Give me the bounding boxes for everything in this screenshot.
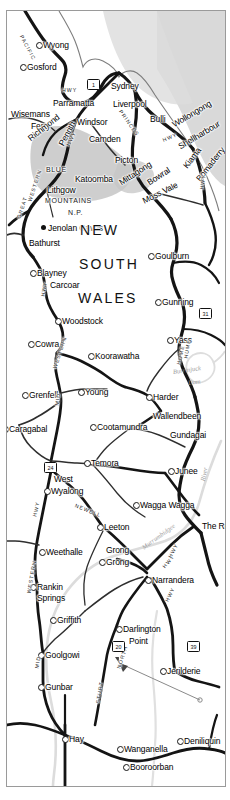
- park-label-line-3: N.P.: [68, 209, 83, 216]
- town-label: Caragabal: [9, 425, 47, 434]
- town-marker: [177, 738, 184, 745]
- town-label: Liverpool: [113, 100, 147, 109]
- town-label: Weethalle: [46, 548, 83, 557]
- town-label: Windsor: [77, 118, 107, 127]
- town-label: Wallendbeen: [153, 412, 201, 421]
- town-label: Woodstock: [62, 317, 103, 326]
- town-label: Bulli: [150, 115, 166, 124]
- town-label: Katoomba: [75, 175, 113, 184]
- town-label: Gosford: [27, 63, 57, 72]
- town-label: Wanganella: [124, 745, 168, 754]
- town-marker: [22, 392, 29, 399]
- town-label: Darlington: [123, 625, 161, 634]
- state-label-line-3: WALES: [78, 291, 138, 305]
- road-temora-junee-alt: [93, 465, 145, 517]
- road-goulburn-coast: [205, 203, 216, 265]
- town-label: Gundagai: [170, 431, 206, 440]
- town-marker: [168, 468, 175, 475]
- town-marker: [41, 225, 46, 230]
- town-label: Wyalong: [51, 487, 83, 496]
- town-label: Springs: [37, 594, 65, 603]
- town-marker: [28, 341, 35, 348]
- town-marker: [50, 617, 57, 624]
- town-marker: [30, 270, 37, 277]
- town-label: Point: [129, 637, 148, 646]
- route-shield: 39: [187, 641, 200, 652]
- town-label: Wyong: [43, 41, 69, 50]
- town-label: Narrandera: [152, 576, 194, 585]
- town-label: Wisemans: [11, 110, 50, 119]
- town-label: Cootamundra: [97, 423, 147, 432]
- town-label: Gunning: [162, 298, 193, 307]
- town-marker: [117, 746, 124, 753]
- town-marker: [146, 394, 153, 401]
- town-marker: [88, 353, 95, 360]
- town-marker: [116, 626, 123, 633]
- town-marker: [38, 684, 45, 691]
- map-frame: WyongGosfordSydneyLiverpoolParramattaWis…: [6, 10, 226, 787]
- town-marker: [148, 253, 155, 260]
- town-label: Sydney: [111, 82, 139, 91]
- map-root: WyongGosfordSydneyLiverpoolParramattaWis…: [0, 0, 230, 800]
- road-kidman-way-south: [95, 625, 117, 725]
- highway-name-label: HWY: [62, 88, 77, 93]
- route-shield: 20: [112, 641, 125, 652]
- town-marker: [20, 64, 27, 71]
- town-label: Blayney: [37, 269, 67, 278]
- town-marker: [133, 502, 140, 509]
- town-marker: [99, 559, 106, 566]
- route-shield: 1: [87, 79, 100, 90]
- town-label: Junee: [175, 467, 198, 476]
- route-shield: 24: [44, 462, 57, 473]
- town-label: Temora: [91, 459, 119, 468]
- town-label: Gunbar: [45, 683, 73, 692]
- town-label: Cowra: [35, 340, 59, 349]
- town-label: The Rock: [202, 522, 226, 531]
- town-label: Carcoar: [50, 281, 80, 290]
- park-label-line-2: MOUNTAINS: [45, 197, 92, 204]
- town-marker: [160, 668, 167, 675]
- town-label: West: [54, 475, 73, 484]
- town-label: Parramatta: [53, 99, 94, 108]
- road-weethalle-west: [7, 541, 39, 545]
- town-label: Booroorban: [130, 763, 173, 772]
- town-label: Jerilderie: [167, 667, 201, 676]
- town-marker: [123, 764, 130, 771]
- state-label-line-1: NEW: [80, 223, 119, 237]
- town-label: Harder: [153, 393, 178, 402]
- town-label: Griffith: [57, 616, 81, 625]
- burrinjuck-arm: [213, 351, 225, 363]
- town-marker: [78, 389, 85, 396]
- town-label: Goulburn: [155, 252, 189, 261]
- town-marker: [155, 299, 162, 306]
- town-label: Hay: [69, 735, 84, 744]
- town-label: Koorawatha: [95, 352, 139, 361]
- route-shield: 31: [199, 308, 212, 319]
- town-marker: [39, 549, 46, 556]
- town-label: Rankin: [37, 583, 63, 592]
- town-label: Wagga Wagga: [140, 501, 195, 510]
- town-marker: [97, 524, 104, 531]
- town-marker: [84, 460, 91, 467]
- road-goulburn-east: [173, 262, 219, 283]
- town-label: Deniliquin: [184, 737, 220, 746]
- road-hume-the-rock: [201, 533, 217, 585]
- town-label: Young: [85, 388, 108, 397]
- town-marker: [145, 577, 152, 584]
- town-marker: [55, 318, 62, 325]
- state-label-line-2: SOUTH: [79, 257, 139, 271]
- town-label: Leeton: [104, 523, 129, 532]
- town-label: Bathurst: [29, 239, 60, 248]
- town-label: Lithgow: [47, 186, 76, 195]
- road-leeton-griffith: [84, 531, 103, 605]
- town-marker: [90, 424, 97, 431]
- town-marker: [36, 42, 43, 49]
- town-label: Grong: [106, 546, 129, 555]
- road-narrandera-darlington: [117, 577, 147, 625]
- town-label: Camden: [89, 135, 121, 144]
- town-label: Goolgowi: [45, 651, 80, 660]
- park-label-line-1: BLUE: [46, 166, 67, 173]
- town-label: Picton: [115, 156, 138, 165]
- town-label: Grong: [106, 558, 129, 567]
- town-marker: [44, 488, 51, 495]
